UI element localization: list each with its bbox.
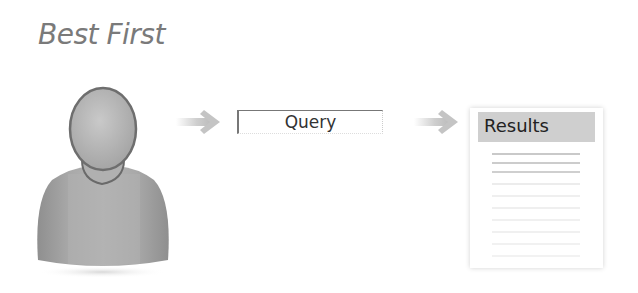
result-line xyxy=(492,195,580,197)
result-line xyxy=(492,219,580,221)
result-line xyxy=(492,153,580,155)
results-label: Results xyxy=(484,115,549,136)
query-label: Query xyxy=(239,111,382,133)
diagram-title: Best First xyxy=(38,18,165,51)
arrow-right-icon xyxy=(414,108,462,140)
user-node xyxy=(30,80,180,280)
result-line xyxy=(492,207,580,209)
result-line xyxy=(492,243,580,245)
query-box: Query xyxy=(237,110,383,134)
result-line xyxy=(492,183,580,185)
result-line xyxy=(492,171,580,173)
results-document: Results xyxy=(470,108,603,268)
result-line xyxy=(492,255,580,257)
user-silhouette-icon xyxy=(30,80,180,280)
arrow-right-icon xyxy=(176,108,224,140)
results-header: Results xyxy=(478,112,595,142)
result-line xyxy=(492,162,580,164)
result-line xyxy=(492,231,580,233)
